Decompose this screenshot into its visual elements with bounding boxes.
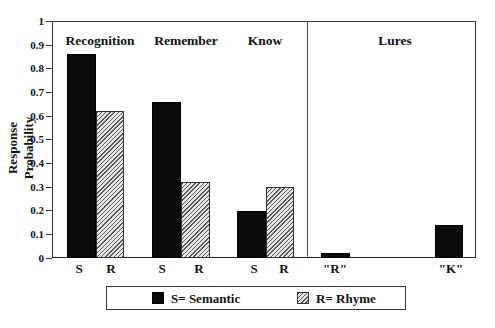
- y-axis-title: Response Probability: [5, 93, 37, 203]
- lures-divider: [307, 21, 308, 258]
- bar-recognition-semantic: [67, 54, 96, 258]
- bar-lures-remember: [321, 253, 350, 258]
- x-tick-label: "K": [436, 261, 466, 277]
- bar-know-semantic: [237, 211, 266, 258]
- x-tick-label: S: [147, 261, 177, 277]
- bar-remember-rhyme: [181, 182, 210, 258]
- y-tick-label: 0.1: [20, 228, 44, 240]
- legend: S= Semantic R= Rhyme: [106, 286, 406, 310]
- x-tick-label: R: [184, 261, 214, 277]
- bar-remember-semantic: [152, 102, 181, 258]
- bar-know-rhyme: [266, 187, 294, 258]
- legend-swatch-semantic: [152, 292, 164, 304]
- x-tick-label: R: [96, 261, 126, 277]
- y-tick-label: 1: [20, 15, 44, 27]
- legend-label-rhyme: R= Rhyme: [316, 291, 376, 307]
- y-tick-label: 0.8: [20, 62, 44, 74]
- group-label-lures: Lures: [360, 33, 430, 49]
- group-label-remember: Remember: [146, 33, 226, 49]
- legend-swatch-rhyme: [297, 292, 309, 304]
- bar-lures-know: [435, 225, 463, 258]
- y-tick-label: 0.9: [20, 39, 44, 51]
- x-tick-label: S: [64, 261, 94, 277]
- y-tick-label: 0.2: [20, 204, 44, 216]
- x-tick-label: R: [269, 261, 299, 277]
- x-tick-label: S: [239, 261, 269, 277]
- bar-recognition-rhyme: [96, 111, 124, 258]
- x-tick-label: "R": [320, 261, 350, 277]
- group-label-recognition: Recognition: [60, 33, 140, 49]
- legend-label-semantic: S= Semantic: [171, 291, 240, 307]
- y-tick-label: 0: [20, 252, 44, 264]
- group-label-know: Know: [240, 33, 290, 49]
